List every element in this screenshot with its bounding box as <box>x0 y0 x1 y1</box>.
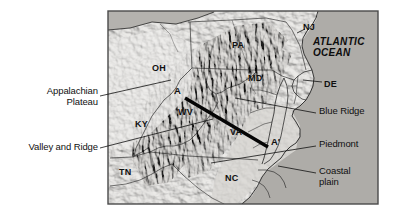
callout-appalachian-plateau: Appalachian Plateau <box>47 86 98 107</box>
state-label-tn: TN <box>119 167 131 177</box>
state-label-va: VA <box>230 127 242 137</box>
leader-appalachian-plateau <box>100 80 171 96</box>
callout-valley-and-ridge: Valley and Ridge <box>28 142 98 153</box>
state-label-oh: OH <box>152 63 166 73</box>
leader-coastal-plain <box>278 166 316 173</box>
appalachian-relief-map: ATLANTIC OCEAN OH PA NJ MD DE WV KY VA T… <box>0 0 400 217</box>
state-label-md: MD <box>248 73 262 83</box>
callout-coastal-plain: Coastal plain <box>319 166 351 187</box>
state-label-de: DE <box>324 79 337 89</box>
state-label-ky: KY <box>135 119 148 129</box>
cross-section-line <box>185 98 268 147</box>
leader-valley-and-ridge <box>100 119 213 148</box>
cross-section-label-a-prime: A′ <box>271 137 280 148</box>
callout-piedmont: Piedmont <box>319 139 358 150</box>
callout-blue-ridge: Blue Ridge <box>319 106 364 117</box>
state-label-wv: WV <box>178 107 193 117</box>
state-label-pa: PA <box>232 40 244 50</box>
state-label-nj: NJ <box>303 22 315 32</box>
leader-delaware <box>303 80 322 82</box>
map-figure-page: ATLANTIC OCEAN OH PA NJ MD DE WV KY VA T… <box>0 0 400 217</box>
ocean-label: ATLANTIC OCEAN <box>313 36 365 58</box>
leader-blue-ridge <box>235 98 316 113</box>
state-label-nc: NC <box>225 173 238 183</box>
leader-piedmont <box>211 146 316 163</box>
cross-section-label-a: A <box>174 86 181 97</box>
